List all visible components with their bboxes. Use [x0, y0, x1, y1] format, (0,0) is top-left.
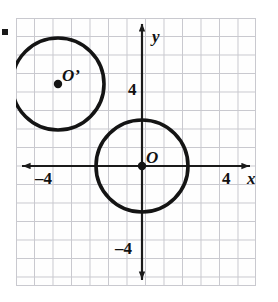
problem-bullet-marker	[2, 29, 8, 35]
axes-and-shapes	[16, 18, 256, 286]
circle-O-label: O	[146, 149, 158, 166]
figure-canvas: 4 –4 –4 4 y x O’ O	[0, 0, 278, 302]
y-tick-label-neg4: –4	[115, 240, 132, 257]
circle-O-center-dot	[138, 162, 146, 170]
y-tick-label-4: 4	[128, 81, 137, 98]
circle-O-prime-label: O’	[62, 67, 80, 84]
coordinate-plane: 4 –4 –4 4 y x O’ O	[16, 18, 256, 286]
x-tick-label-4: 4	[222, 170, 231, 187]
x-tick-label-neg4: –4	[35, 170, 52, 187]
x-axis-label: x	[247, 170, 256, 187]
y-axis-label: y	[152, 28, 160, 45]
circle-O-prime-center-dot	[54, 80, 62, 88]
